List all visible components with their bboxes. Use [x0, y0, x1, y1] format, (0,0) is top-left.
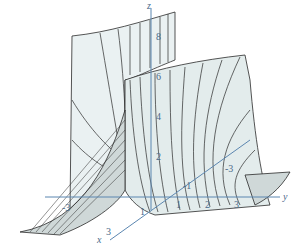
svg-text:1: 1	[140, 206, 145, 217]
svg-text:2: 2	[205, 199, 210, 210]
svg-text:8: 8	[156, 31, 161, 42]
svg-text:2: 2	[156, 151, 161, 162]
svg-text:-3: -3	[62, 202, 70, 213]
svg-text:3: 3	[106, 226, 111, 237]
x-axis-label: x	[96, 234, 102, 245]
svg-text:6: 6	[156, 71, 161, 82]
surface-front-wall	[125, 55, 270, 215]
svg-text:3: 3	[234, 199, 239, 210]
z-axis-label: z	[146, 0, 151, 11]
svg-text:1: 1	[176, 199, 181, 210]
svg-text:-3: -3	[225, 163, 233, 174]
surface-plot: z y x 8 6 4 2 1 2 3 1 3 -1 -3 -3	[0, 0, 304, 251]
svg-text:4: 4	[156, 111, 161, 122]
svg-text:-1: -1	[183, 180, 191, 191]
y-axis-label: y	[282, 191, 288, 202]
